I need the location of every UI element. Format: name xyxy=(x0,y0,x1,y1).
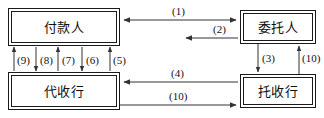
node-collecting-bank[interactable]: 代收行 xyxy=(8,72,120,110)
node-remitting-bank-label: 托收行 xyxy=(258,85,299,98)
edge-label-1: (1) xyxy=(171,6,186,17)
edge-label-10-horizontal: (10) xyxy=(168,91,188,102)
edge-label-8: (8) xyxy=(39,55,54,66)
node-remitting-bank[interactable]: 托收行 xyxy=(240,74,316,108)
node-client-label: 委托人 xyxy=(258,21,299,34)
edge-label-2: (2) xyxy=(212,24,227,35)
edge-label-6: (6) xyxy=(85,55,100,66)
node-payer-label: 付款人 xyxy=(44,21,85,34)
edge-label-10-vertical: (10) xyxy=(301,53,321,64)
edge-label-3: (3) xyxy=(261,53,276,64)
edge-label-4: (4) xyxy=(170,68,185,79)
collection-settlement-flow-diagram: client --> 付款人 xyxy=(0,0,324,118)
edge-label-7: (7) xyxy=(61,55,76,66)
node-payer[interactable]: 付款人 xyxy=(8,8,120,46)
edge-label-5: (5) xyxy=(112,55,127,66)
node-client[interactable]: 委托人 xyxy=(240,10,316,44)
edge-label-9: (9) xyxy=(16,55,31,66)
node-collecting-bank-label: 代收行 xyxy=(44,85,85,98)
